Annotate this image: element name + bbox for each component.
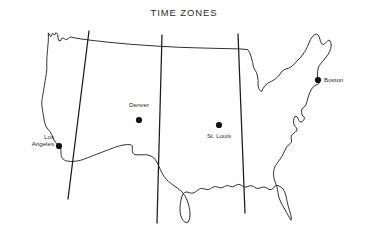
city-dot-boston	[315, 77, 321, 83]
city-label-los-angeles: LosAngeles	[10, 133, 54, 147]
city-dot-denver	[136, 117, 142, 123]
us-map-svg	[0, 0, 368, 235]
city-label-los-angeles-line2: Angeles	[32, 140, 54, 147]
time-zones-map-figure: TIME ZONES LosAngeles Denver St. Louis B…	[0, 0, 368, 235]
timezone-line-mountain-central	[157, 35, 162, 223]
timezone-line-central-eastern	[238, 34, 245, 213]
city-dot-los-angeles	[56, 143, 62, 149]
city-label-los-angeles-line1: Los	[44, 133, 54, 140]
city-dot-st-louis	[216, 122, 222, 128]
city-label-boston: Boston	[324, 76, 364, 83]
city-label-st-louis: St. Louis	[189, 132, 249, 139]
timezone-line-pacific-mountain	[68, 31, 89, 199]
city-label-denver: Denver	[110, 101, 168, 108]
